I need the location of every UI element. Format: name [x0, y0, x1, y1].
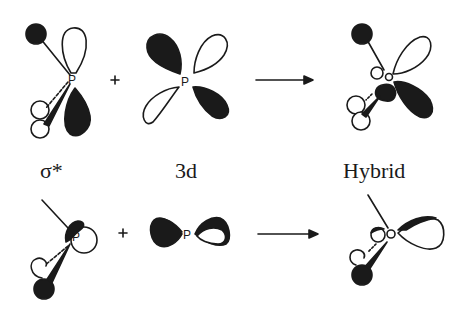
orbital-lobe-filled [151, 218, 182, 247]
orbital-lobe-open [194, 35, 227, 73]
dashed-bond [368, 244, 376, 252]
substituent-atom-open [31, 258, 46, 278]
orbital-lobe-open [143, 87, 179, 124]
label-3d: 3d [175, 160, 197, 182]
bond-line [368, 195, 388, 228]
orbital-lobe-filled [65, 88, 90, 136]
bond-line [366, 38, 384, 70]
substituent-atom-open [31, 101, 49, 119]
diagram-canvas: P P [0, 0, 464, 311]
substituent-atom-filled [352, 24, 372, 44]
hybrid-orbital-bottom [350, 195, 444, 285]
substituent-atom-filled [352, 265, 372, 285]
label-hybrid: Hybrid [343, 160, 405, 182]
orbital-lobe-filled [147, 34, 181, 74]
sigma-star-orbital-bottom: P [31, 200, 97, 299]
substituent-atom-filled [34, 279, 54, 299]
phosphorus-label: P [72, 230, 80, 244]
plus-operator-bottom [119, 229, 127, 237]
label-sigma-star: σ* [40, 160, 63, 182]
phosphorus-label: P [183, 228, 191, 242]
3d-orbital-bottom: P [151, 218, 230, 247]
phosphorus-label: P [68, 73, 76, 87]
orbital-lobe-open [398, 219, 444, 249]
orbital-lobe-open [62, 28, 86, 73]
orbital-lobe-filled [394, 82, 432, 118]
substituent-atom-filled [26, 24, 46, 44]
sigma-star-orbital-top: P [26, 24, 90, 138]
small-lobe-open [387, 230, 395, 238]
plus-operator-top [111, 76, 119, 84]
arrow-top [256, 76, 313, 84]
arrow-bottom [258, 230, 318, 238]
bond-line [42, 200, 68, 228]
orbital-hybridization-diagram: P P [0, 0, 464, 311]
small-lobe-open [371, 67, 383, 79]
phosphorus-label: P [181, 75, 189, 89]
orbital-lobe-open [393, 37, 431, 74]
dashed-bond [366, 94, 372, 100]
orbital-lobe-filled [193, 87, 228, 118]
small-lobe-open [386, 74, 393, 81]
substituent-atom-open [350, 250, 365, 265]
3d-orbital-top: P [143, 34, 228, 123]
hybrid-orbital-top [347, 24, 432, 130]
